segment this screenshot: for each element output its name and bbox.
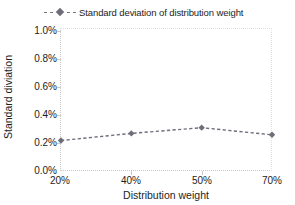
x-tick-label-70: 70% <box>252 176 292 186</box>
x-tick-label-20: 20% <box>40 176 80 186</box>
legend-line-left-icon <box>44 12 53 13</box>
y-tick-label-1.0: 1.0% <box>13 26 57 36</box>
series-marker-group <box>58 124 275 143</box>
legend-entry-label: Standard deviation of distribution weigh… <box>79 7 243 18</box>
y-tick-label-0.2: 0.2% <box>13 138 57 148</box>
chart-legend: Standard deviation of distribution weigh… <box>44 4 243 20</box>
data-point-marker <box>128 130 134 136</box>
data-point-marker <box>198 124 204 130</box>
y-tick-label-0.8: 0.8% <box>13 54 57 64</box>
y-axis-title: Standard diviation <box>2 22 18 172</box>
series-plot <box>61 29 273 172</box>
x-axis-title: Distribution weight <box>60 189 272 201</box>
plot-area <box>60 28 272 171</box>
x-tick-label-50: 50% <box>182 176 222 186</box>
y-tick-label-0.6: 0.6% <box>13 82 57 92</box>
legend-diamond-marker-icon <box>56 8 64 16</box>
data-point-marker <box>269 132 275 138</box>
y-tick-label-0.4: 0.4% <box>13 110 57 120</box>
series-line-standard-deviation <box>61 128 272 141</box>
legend-line-right-icon <box>67 12 76 13</box>
chart-screenshot: Standard deviation of distribution weigh… <box>0 0 295 205</box>
x-tick-label-40: 40% <box>111 176 151 186</box>
